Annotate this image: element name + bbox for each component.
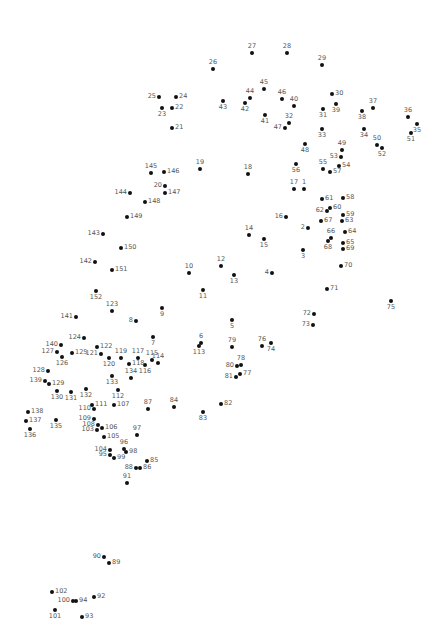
dot-number-label: 135 bbox=[50, 423, 62, 430]
dot-number-label: 76 bbox=[258, 336, 266, 343]
dot-number-label: 47 bbox=[274, 124, 282, 131]
dot-number-label: 93 bbox=[85, 613, 93, 620]
dot-marker bbox=[125, 481, 129, 485]
dot-marker bbox=[285, 51, 289, 55]
dot-marker bbox=[320, 63, 324, 67]
dot-number-label: 79 bbox=[228, 337, 236, 344]
dot-marker bbox=[375, 143, 379, 147]
dot-number-label: 139 bbox=[30, 377, 42, 384]
dot-number-label: 10 bbox=[185, 263, 193, 270]
dot-number-label: 15 bbox=[260, 242, 268, 249]
dot-marker bbox=[26, 410, 30, 414]
dot-marker bbox=[341, 196, 345, 200]
dot-number-label: 128 bbox=[33, 367, 45, 374]
dot-marker bbox=[107, 561, 111, 565]
dot-number-label: 96 bbox=[120, 439, 128, 446]
dot-number-label: 62 bbox=[316, 207, 324, 214]
dot-number-label: 19 bbox=[196, 159, 204, 166]
dot-number-label: 122 bbox=[100, 343, 112, 350]
dot-marker bbox=[270, 271, 274, 275]
dot-number-label: 86 bbox=[143, 464, 151, 471]
dot-puzzle-canvas: 1234567891011121314151617181920212223242… bbox=[0, 0, 441, 644]
dot-number-label: 75 bbox=[387, 304, 395, 311]
dot-marker bbox=[311, 323, 315, 327]
dot-number-label: 23 bbox=[158, 111, 166, 118]
dot-marker bbox=[260, 344, 264, 348]
dot-marker bbox=[234, 375, 238, 379]
dot-marker bbox=[128, 191, 132, 195]
dot-number-label: 63 bbox=[345, 217, 353, 224]
dot-number-label: 32 bbox=[285, 113, 293, 120]
dot-number-label: 72 bbox=[303, 310, 311, 317]
dot-number-label: 25 bbox=[148, 93, 156, 100]
dot-marker bbox=[95, 345, 99, 349]
dot-number-label: 44 bbox=[246, 88, 254, 95]
dot-marker bbox=[339, 155, 343, 159]
dot-marker bbox=[340, 219, 344, 223]
dot-marker bbox=[163, 184, 167, 188]
dot-marker bbox=[100, 426, 104, 430]
dot-marker bbox=[127, 362, 131, 366]
dot-marker bbox=[321, 167, 325, 171]
dot-number-label: 51 bbox=[407, 136, 415, 143]
dot-number-label: 91 bbox=[123, 473, 131, 480]
dot-number-label: 52 bbox=[378, 151, 386, 158]
dot-number-label: 83 bbox=[199, 415, 207, 422]
dot-number-label: 49 bbox=[338, 140, 346, 147]
dot-marker bbox=[287, 121, 291, 125]
dot-number-label: 148 bbox=[148, 198, 160, 205]
dot-number-label: 27 bbox=[248, 43, 256, 50]
dot-marker bbox=[170, 106, 174, 110]
dot-number-label: 143 bbox=[88, 230, 100, 237]
dot-number-label: 68 bbox=[324, 244, 332, 251]
dot-number-label: 61 bbox=[325, 195, 333, 202]
dot-number-label: 87 bbox=[144, 399, 152, 406]
dot-number-label: 84 bbox=[170, 397, 178, 404]
dot-marker bbox=[325, 287, 329, 291]
dot-marker bbox=[102, 555, 106, 559]
dot-number-label: 120 bbox=[103, 361, 115, 368]
dot-number-label: 5 bbox=[230, 323, 234, 330]
dot-marker bbox=[125, 215, 129, 219]
dot-marker bbox=[82, 336, 86, 340]
dot-number-label: 108 bbox=[83, 421, 95, 428]
dot-number-label: 57 bbox=[333, 168, 341, 175]
dot-marker bbox=[280, 97, 284, 101]
dot-number-label: 112 bbox=[112, 393, 124, 400]
dot-number-label: 82 bbox=[224, 400, 232, 407]
dot-number-label: 151 bbox=[115, 266, 127, 273]
dot-marker bbox=[406, 115, 410, 119]
dot-number-label: 28 bbox=[283, 43, 291, 50]
dot-number-label: 134 bbox=[125, 368, 137, 375]
dot-number-label: 113 bbox=[193, 349, 205, 356]
dot-marker bbox=[163, 191, 167, 195]
dot-number-label: 98 bbox=[129, 448, 137, 455]
dot-marker bbox=[339, 264, 343, 268]
dot-marker bbox=[95, 428, 99, 432]
dot-number-label: 119 bbox=[115, 348, 127, 355]
dot-number-label: 81 bbox=[225, 373, 233, 380]
dot-number-label: 88 bbox=[125, 464, 133, 471]
dot-marker bbox=[149, 171, 153, 175]
dot-marker bbox=[230, 345, 234, 349]
dot-number-label: 13 bbox=[230, 278, 238, 285]
dot-marker bbox=[110, 309, 114, 313]
dot-marker bbox=[92, 417, 96, 421]
dot-number-label: 126 bbox=[56, 360, 68, 367]
dot-number-label: 24 bbox=[179, 93, 187, 100]
dot-marker bbox=[172, 405, 176, 409]
dot-marker bbox=[312, 312, 316, 316]
dot-number-label: 29 bbox=[318, 55, 326, 62]
dot-number-label: 21 bbox=[175, 124, 183, 131]
dot-marker bbox=[24, 419, 28, 423]
dot-number-label: 129 bbox=[52, 380, 64, 387]
dot-marker bbox=[134, 466, 138, 470]
dot-number-label: 136 bbox=[24, 432, 36, 439]
dot-number-label: 100 bbox=[58, 597, 70, 604]
dot-number-label: 145 bbox=[145, 163, 157, 170]
dot-number-label: 137 bbox=[29, 417, 41, 424]
dot-number-label: 8 bbox=[129, 317, 133, 324]
dot-number-label: 142 bbox=[80, 258, 92, 265]
dot-marker bbox=[101, 232, 105, 236]
dot-marker bbox=[341, 247, 345, 251]
